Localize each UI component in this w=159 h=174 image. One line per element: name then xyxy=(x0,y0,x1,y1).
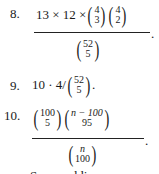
binomial: ( 1005 ) xyxy=(32,106,63,130)
item-number: 10. xyxy=(4,108,20,124)
item-number: 8. xyxy=(10,6,20,22)
binomial: ( n − 10095 ) xyxy=(63,106,111,130)
numerator: 13 × 12 × ( 43 ) ( 42 ) xyxy=(36,0,128,30)
clipped-text-line: Seven addi xyxy=(30,168,87,174)
binomial: ( 42 ) xyxy=(107,3,128,27)
denominator: ( 525 ) xyxy=(75,35,101,63)
expression: 10 · 4/ ( 525 ) . xyxy=(32,70,95,100)
numerator-prefix: 13 × 12 × xyxy=(36,7,86,23)
fraction-bar xyxy=(32,138,144,139)
binomial: ( n100 ) xyxy=(67,142,98,166)
binomial: ( 525 ) xyxy=(66,73,92,97)
binomial: ( 43 ) xyxy=(86,3,107,27)
denominator: ( n100 ) xyxy=(67,140,98,168)
fraction-bar xyxy=(34,32,150,33)
item-number: 9. xyxy=(10,78,20,94)
binomial: ( 525 ) xyxy=(75,37,101,61)
numerator: ( 1005 ) ( n − 10095 ) xyxy=(32,103,111,133)
